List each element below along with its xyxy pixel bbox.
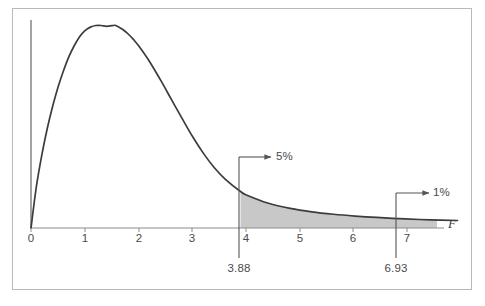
x-tick-label-5: 5 <box>285 232 315 244</box>
f-distribution-figure: 0 1 2 3 4 5 6 7 F 5% 1% 3.88 6.93 <box>0 0 485 306</box>
x-tick-label-3: 3 <box>177 232 207 244</box>
shaded-tail-region <box>241 192 458 228</box>
x-tick-label-6: 6 <box>338 232 368 244</box>
critical-value-label-3-88: 3.88 <box>216 262 262 274</box>
x-tick-label-2: 2 <box>124 232 154 244</box>
chart-canvas <box>0 0 485 306</box>
x-tick-label-0: 0 <box>16 232 46 244</box>
x-tick-label-4: 4 <box>231 232 261 244</box>
x-tick-label-7: 7 <box>392 232 422 244</box>
five-percent-label: 5% <box>276 150 293 162</box>
one-percent-label: 1% <box>433 186 450 198</box>
x-tick-label-1: 1 <box>70 232 100 244</box>
x-axis-name: F <box>448 216 456 232</box>
critical-value-label-6-93: 6.93 <box>373 262 419 274</box>
